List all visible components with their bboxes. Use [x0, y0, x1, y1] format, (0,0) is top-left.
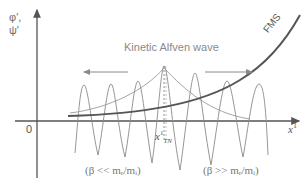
origin-label: 0: [26, 123, 32, 135]
turning-point-label: x1TN: [155, 129, 172, 145]
turning-point-label-sub: TN: [163, 137, 172, 145]
regime-left-label: (β << mₑ/mᵢ): [85, 164, 141, 176]
envelope-right: [164, 68, 250, 119]
y-axis-label: φ′, ψ′: [9, 11, 21, 37]
regime-right-label: (β >> mₑ/mᵢ): [203, 164, 259, 176]
x-axis-label-sup: 1: [293, 121, 297, 130]
x-axis-label: x1: [288, 121, 297, 135]
y-axis-label-phi: φ′,: [9, 11, 21, 24]
envelope-left: [70, 68, 164, 113]
diagram-title: Kinetic Alfven wave: [124, 41, 219, 53]
y-axis-label-psi: ψ′: [9, 24, 21, 37]
turning-point-label-sup: 1: [160, 129, 164, 137]
